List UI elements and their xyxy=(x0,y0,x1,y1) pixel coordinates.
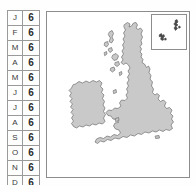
table-row: F 6 xyxy=(8,26,40,41)
month-value-cell: 6 xyxy=(23,41,40,56)
month-value-cell: 6 xyxy=(23,161,40,176)
hebrides-island-small xyxy=(105,52,108,56)
month-label-cell: A xyxy=(8,116,23,131)
outer-hebrides-island xyxy=(109,31,114,44)
month-label-cell: D xyxy=(8,176,23,186)
month-value-cell: 6 xyxy=(23,101,40,116)
table-row: J 6 xyxy=(8,11,40,26)
arran-island xyxy=(120,72,123,76)
month-label-cell: O xyxy=(8,146,23,161)
table-row: N 6 xyxy=(8,161,40,176)
mull-island xyxy=(115,62,120,67)
month-value-cell: 6 xyxy=(23,146,40,161)
month-value-cell: 6 xyxy=(23,56,40,71)
month-value-cell: 6 xyxy=(23,176,40,186)
ireland-landmass xyxy=(69,81,106,129)
orkney-islands xyxy=(159,34,165,41)
month-value-cell: 6 xyxy=(23,116,40,131)
month-value-cell: 6 xyxy=(23,86,40,101)
monthly-value-table-body: J 6 F 6 M 6 A 6 M 6 J 6 xyxy=(8,11,40,186)
table-row: J 6 xyxy=(8,86,40,101)
month-value-cell: 6 xyxy=(23,131,40,146)
month-label-cell: J xyxy=(8,11,23,26)
isle-of-wight-island xyxy=(156,136,160,139)
table-row: S 6 xyxy=(8,131,40,146)
month-label-cell: M xyxy=(8,41,23,56)
month-label-cell: M xyxy=(8,71,23,86)
table-row: A 6 xyxy=(8,56,40,71)
table-row: M 6 xyxy=(8,41,40,56)
screenshot-root: J 6 F 6 M 6 A 6 M 6 J 6 xyxy=(0,0,196,185)
isle-of-man-island xyxy=(114,90,117,94)
month-value-cell: 6 xyxy=(23,11,40,26)
month-label-cell: F xyxy=(8,26,23,41)
month-label-cell: J xyxy=(8,86,23,101)
hebrides-island-north xyxy=(105,42,109,48)
month-value-cell: 6 xyxy=(23,71,40,86)
isle-of-skye xyxy=(112,54,119,61)
table-row: J 6 xyxy=(8,101,40,116)
month-label-cell: J xyxy=(8,101,23,116)
month-label-cell: S xyxy=(8,131,23,146)
month-value-cell: 6 xyxy=(23,26,40,41)
table-row: M 6 xyxy=(8,71,40,86)
northern-isles-inset-map xyxy=(152,15,186,49)
table-row: A 6 xyxy=(8,116,40,131)
table-row: D 6 xyxy=(8,176,40,186)
northern-isles-inset xyxy=(151,14,187,50)
shetland-island-small xyxy=(179,26,181,28)
anglesey-island xyxy=(116,118,120,122)
islay-island xyxy=(111,67,116,72)
monthly-value-table: J 6 F 6 M 6 A 6 M 6 J 6 xyxy=(7,10,40,185)
month-label-cell: A xyxy=(8,56,23,71)
month-label-cell: N xyxy=(8,161,23,176)
hebrides-island-mid xyxy=(109,48,113,53)
orkney-island-small xyxy=(165,38,167,40)
map-panel xyxy=(46,11,190,178)
table-row: O 6 xyxy=(8,146,40,161)
shetland-islands xyxy=(174,20,178,31)
